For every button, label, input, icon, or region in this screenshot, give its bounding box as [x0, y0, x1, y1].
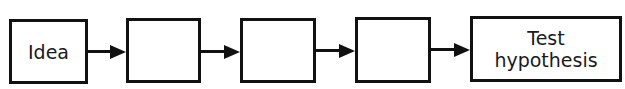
arrow-shaft: [201, 50, 226, 53]
flow-node-empty-3: [355, 17, 431, 83]
arrow-shaft: [88, 50, 112, 53]
arrow-right-icon: [88, 45, 126, 59]
arrow-shaft: [431, 48, 456, 51]
arrow-right-icon: [201, 45, 240, 59]
flow-node-empty-2: [240, 18, 316, 83]
arrow-head: [339, 44, 355, 58]
node-label: Test hypothesis: [494, 27, 597, 71]
arrow-head: [110, 45, 126, 59]
flow-node-idea: Idea: [9, 19, 88, 84]
arrow-head: [224, 45, 240, 59]
flow-node-empty-1: [126, 18, 201, 83]
arrow-right-icon: [316, 44, 355, 58]
arrow-shaft: [316, 49, 341, 52]
arrow-right-icon: [431, 43, 470, 57]
node-label: Idea: [28, 41, 69, 63]
flow-node-test-hypothesis: Test hypothesis: [470, 16, 622, 82]
arrow-head: [454, 43, 470, 57]
